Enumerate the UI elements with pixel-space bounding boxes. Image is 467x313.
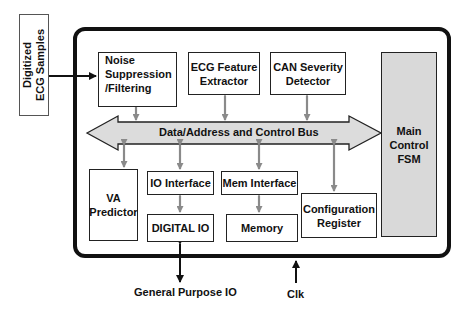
gpio-label: General Purpose IO <box>134 286 237 298</box>
memory-block: Memory <box>226 214 298 242</box>
clk-label: Clk <box>287 288 304 300</box>
ecg-feature-extractor-block: ECG Feature Extractor <box>188 52 260 95</box>
va-predictor-block: VA Predictor <box>89 169 138 241</box>
configuration-register-block: Configuration Register <box>301 193 377 238</box>
can-severity-detector-block: CAN Severity Detector <box>270 52 346 95</box>
digital-io-block: DIGITAL IO <box>147 214 214 242</box>
mem-interface-block: Mem Interface <box>221 171 298 195</box>
main-control-fsm-block: Main Control FSM <box>381 52 437 237</box>
io-interface-block: IO Interface <box>147 171 214 195</box>
bus-label: Data/Address and Control Bus <box>159 126 319 138</box>
noise-suppression-block: Noise Suppression /Filtering <box>98 52 177 107</box>
